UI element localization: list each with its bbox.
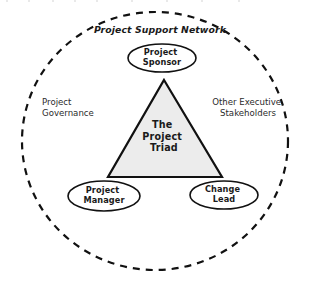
diagram-canvas: Project Support Network The Project Tria…	[0, 0, 316, 281]
label-other-executive-stakeholders-line-1: Other Executive	[212, 97, 281, 107]
node-project-manager-label: Project Manager	[83, 185, 125, 205]
label-other-executive-stakeholders: Other Executive Stakeholders	[212, 97, 284, 118]
triad-label-line-3: Triad	[150, 142, 178, 153]
node-project-sponsor-label: Project Sponsor	[143, 47, 182, 67]
label-project-governance-line-1: Project	[42, 97, 72, 107]
project-triad-diagram: Project Support Network The Project Tria…	[0, 0, 316, 281]
label-project-governance-line-2: Governance	[42, 108, 94, 118]
node-change-lead-line-1: Change	[205, 184, 241, 194]
triad-label-line-1: The	[152, 119, 173, 130]
node-project-manager-line-2: Manager	[83, 195, 125, 205]
node-project-manager-line-1: Project	[86, 185, 120, 195]
label-other-executive-stakeholders-line-2: Stakeholders	[220, 108, 276, 118]
triad-label-line-2: Project	[142, 131, 182, 142]
project-support-network-title: Project Support Network	[94, 24, 227, 35]
node-project-sponsor-line-2: Sponsor	[143, 57, 182, 67]
node-project-sponsor-line-1: Project	[144, 47, 178, 57]
node-change-lead-line-2: Lead	[213, 194, 236, 204]
